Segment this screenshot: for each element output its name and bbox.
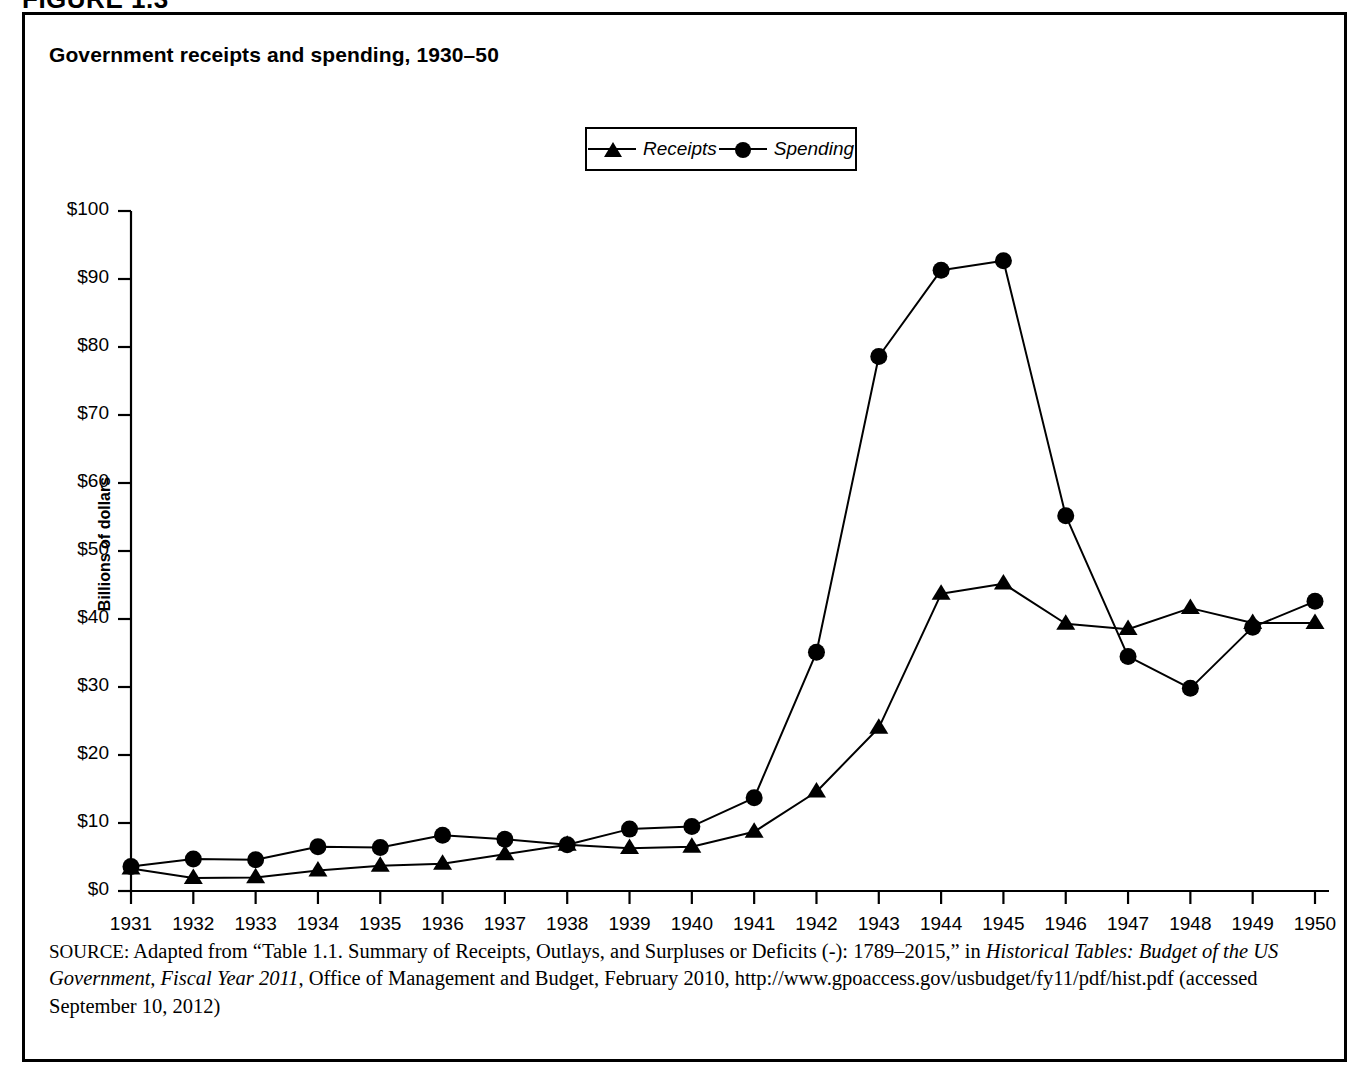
data-point-receipts [1306,613,1325,629]
y-tick-label: $0 [21,878,109,900]
data-point-receipts [1181,599,1200,615]
x-tick-label: 1940 [658,913,726,935]
data-point-spending [1307,593,1324,610]
chart-legend: Receipts Spending [585,127,857,171]
data-point-spending [309,838,326,855]
data-point-receipts [308,861,327,877]
data-point-spending [1057,507,1074,524]
y-tick-label: $80 [21,334,109,356]
data-point-spending [372,839,389,856]
data-point-spending [995,252,1012,269]
y-tick-label: $10 [21,810,109,832]
data-point-receipts [807,782,826,798]
data-point-spending [683,818,700,835]
x-tick-label: 1949 [1219,913,1287,935]
y-tick-label: $20 [21,742,109,764]
x-tick-label: 1946 [1032,913,1100,935]
x-tick-label: 1945 [969,913,1037,935]
y-tick-label: $100 [21,198,109,220]
data-point-receipts [184,868,203,884]
data-point-receipts [1056,614,1075,630]
x-tick-label: 1937 [471,913,539,935]
data-point-receipts [1119,620,1138,636]
data-point-receipts [1243,613,1262,629]
legend-label-receipts: Receipts [643,138,717,160]
y-tick-label: $90 [21,266,109,288]
series-line-receipts [131,584,1315,878]
data-point-spending [1120,648,1137,665]
data-point-receipts [620,839,639,855]
legend-label-spending: Spending [774,138,854,160]
x-tick-label: 1938 [533,913,601,935]
data-point-receipts [371,856,390,872]
data-point-receipts [994,574,1013,590]
y-tick-label: $30 [21,674,109,696]
data-point-spending [434,827,451,844]
plot-area [25,15,1350,1065]
data-point-spending [808,644,825,661]
data-point-receipts [932,584,951,600]
x-tick-label: 1941 [720,913,788,935]
data-point-spending [559,836,576,853]
data-point-spending [185,851,202,868]
x-tick-label: 1939 [596,913,664,935]
data-point-receipts [246,868,265,884]
data-point-receipts [495,845,514,861]
x-tick-label: 1950 [1281,913,1349,935]
data-point-receipts [433,854,452,870]
data-point-spending [1182,680,1199,697]
circle-marker-icon [719,140,767,158]
x-tick-label: 1947 [1094,913,1162,935]
data-point-spending [621,821,638,838]
chart-svg [25,15,1350,1065]
legend-item-spending: Spending [719,138,854,160]
x-tick-label: 1935 [346,913,414,935]
data-point-receipts [682,837,701,853]
y-tick-label: $50 [21,538,109,560]
data-point-receipts [745,822,764,838]
x-tick-label: 1932 [159,913,227,935]
figure-container: Government receipts and spending, 1930–5… [22,12,1347,1062]
x-tick-label: 1943 [845,913,913,935]
y-tick-label: $40 [21,606,109,628]
x-tick-label: 1936 [409,913,477,935]
x-tick-label: 1948 [1156,913,1224,935]
data-point-spending [870,348,887,365]
x-tick-label: 1944 [907,913,975,935]
data-point-spending [933,262,950,279]
data-point-receipts [122,859,141,875]
series-line-spending [131,261,1315,867]
y-tick-label: $70 [21,402,109,424]
data-point-spending [746,789,763,806]
data-point-spending [123,858,140,875]
x-tick-label: 1933 [222,913,290,935]
source-prefix: SOURCE: [49,941,129,962]
data-point-spending [1244,619,1261,636]
chart-title: Government receipts and spending, 1930–5… [49,43,499,67]
data-point-receipts [558,835,577,851]
data-point-spending [247,851,264,868]
data-point-receipts [869,718,888,734]
source-note: SOURCE: Adapted from “Table 1.1. Summary… [49,938,1314,1020]
y-tick-label: $60 [21,470,109,492]
x-tick-label: 1931 [97,913,165,935]
legend-item-receipts: Receipts [588,138,717,160]
x-tick-label: 1942 [782,913,850,935]
data-point-spending [496,831,513,848]
triangle-marker-icon [588,140,636,158]
source-text-1: Adapted from “Table 1.1. Summary of Rece… [129,940,986,962]
x-tick-label: 1934 [284,913,352,935]
